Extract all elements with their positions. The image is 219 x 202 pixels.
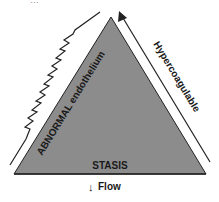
arrow-up-icon: [118, 11, 127, 22]
down-arrow-icon: ↓: [88, 181, 94, 193]
virchow-triad-diagram: … ABNORMAL endothelium Hypercoagulable S…: [0, 0, 219, 202]
cropped-title: …: [30, 0, 39, 5]
flow-label: Flow: [98, 181, 121, 192]
base-label: STASIS: [92, 160, 128, 171]
